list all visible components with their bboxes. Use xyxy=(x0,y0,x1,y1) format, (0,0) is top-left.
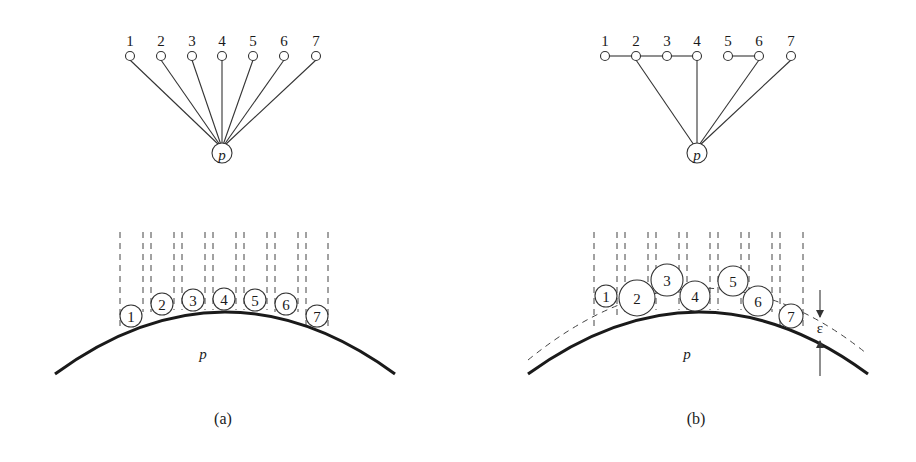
disk-label: 2 xyxy=(633,291,641,307)
edge-7-p xyxy=(700,60,791,145)
node-label: 6 xyxy=(280,33,288,49)
node-label: 3 xyxy=(663,33,671,49)
disk-label: 4 xyxy=(691,289,699,305)
panel-b: 1 2 3 4 5 6 7 p xyxy=(528,33,868,428)
panel-a-graph: 1 2 3 4 5 6 7 p xyxy=(126,33,321,163)
disk-label: 2 xyxy=(158,297,166,313)
node-label: 5 xyxy=(249,33,257,49)
center-node-label: p xyxy=(217,147,226,163)
node-label: 1 xyxy=(601,33,609,49)
edge-6-p xyxy=(699,60,759,145)
node-label: 3 xyxy=(188,33,196,49)
disk-label: 4 xyxy=(220,292,228,308)
graph-node-6 xyxy=(280,52,289,61)
edge-1-p xyxy=(130,60,219,145)
graph-node-7 xyxy=(787,52,796,61)
node-label: 5 xyxy=(724,33,732,49)
caption-b: (b) xyxy=(687,410,706,428)
node-label: 1 xyxy=(126,33,134,49)
disk-label: 5 xyxy=(251,293,259,309)
graph-node-6 xyxy=(755,52,764,61)
panel-a: 1 2 3 4 5 6 7 p xyxy=(55,33,395,428)
edge-7-p xyxy=(225,60,316,145)
caption-a: (a) xyxy=(214,410,232,428)
graph-node-2 xyxy=(632,52,641,61)
node-label: 2 xyxy=(632,33,640,49)
edge-2-p xyxy=(161,60,220,145)
disk-label: 7 xyxy=(787,309,795,325)
panel-b-surface: 1 2 3 4 5 6 7 ε p xyxy=(528,232,868,376)
edge-6-p xyxy=(224,60,284,145)
node-label: 6 xyxy=(755,33,763,49)
disk-label: 5 xyxy=(729,274,737,290)
disk-label: 6 xyxy=(754,294,762,310)
node-label: 7 xyxy=(787,33,795,49)
graph-node-3 xyxy=(188,52,197,61)
disk-label: 1 xyxy=(127,309,135,325)
surface-label-p: p xyxy=(198,346,207,362)
disk-label: 3 xyxy=(189,293,197,309)
edge-3-p xyxy=(192,60,221,145)
graph-node-7 xyxy=(312,52,321,61)
center-node-label: p xyxy=(692,147,701,163)
panel-a-surface: 1 2 3 4 5 6 7 p xyxy=(55,232,395,374)
graph-node-4 xyxy=(218,52,227,61)
graph-node-3 xyxy=(663,52,672,61)
surface-curve xyxy=(55,312,395,374)
disk-label: 7 xyxy=(313,309,321,325)
node-label: 7 xyxy=(312,33,320,49)
graph-node-5 xyxy=(249,52,258,61)
node-label: 2 xyxy=(157,33,165,49)
arrowhead-down-icon xyxy=(816,310,824,318)
edge-2-p xyxy=(636,60,694,145)
disk-label: 1 xyxy=(602,289,610,305)
disk-label: 3 xyxy=(663,273,671,289)
graph-node-4 xyxy=(693,52,702,61)
epsilon-label: ε xyxy=(817,320,823,336)
graph-node-1 xyxy=(126,52,135,61)
graph-node-2 xyxy=(157,52,166,61)
disk-label: 6 xyxy=(282,297,290,313)
surface-label-p: p xyxy=(682,346,691,362)
graph-node-1 xyxy=(601,52,610,61)
graph-node-5 xyxy=(724,52,733,61)
panel-b-graph: 1 2 3 4 5 6 7 p xyxy=(601,33,796,163)
node-label: 4 xyxy=(693,33,701,49)
diagram-canvas: 1 2 3 4 5 6 7 p xyxy=(0,0,916,462)
node-label: 4 xyxy=(218,33,226,49)
